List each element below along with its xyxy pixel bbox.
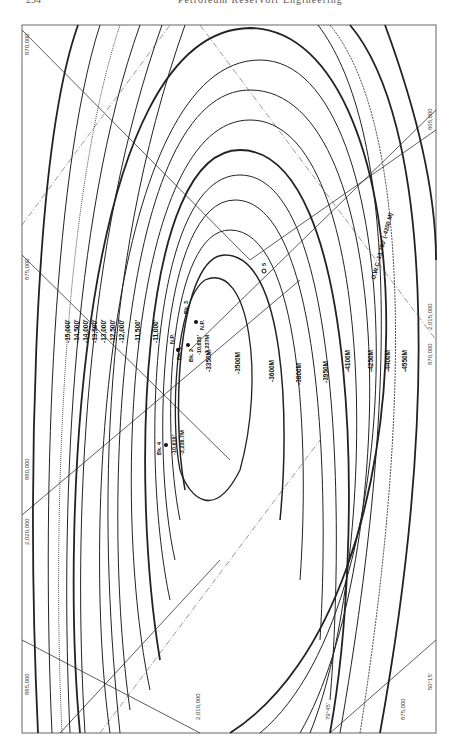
grid-coordinate-labels: 870,000 865,000 875,000 880,000 2,020,00… [24,33,433,720]
coord-label: 875,000 [400,698,406,720]
contour-label: -11,000' [152,319,160,343]
well-status: N.P. [169,334,175,344]
coord-label: 880,000 [24,458,30,480]
coord-label: 875,000 [24,258,30,280]
contour-label: -4100M [344,350,351,372]
contour-label: -4250M [367,350,374,372]
well-depth-m: -3,237M [204,334,210,355]
contour-label: -3800M [295,363,302,385]
contour-label: -11,500' [134,319,142,343]
contour-label: -14,000' [82,319,90,343]
well-name: Bk. 4 [156,441,162,455]
well-name: Bk. 2 [188,349,194,362]
owc-label: O.W.C.-13,780' (-4200 M) [370,212,394,280]
well-depth-ft: -10,620' [196,334,202,355]
well-name: Bk. 3 [183,301,189,314]
contour-label: -3950M [322,361,329,383]
well-depth-ft: -10,619' [171,434,177,455]
coord-label: 2,010,000 [195,693,201,720]
well-symbol-icon [164,443,168,447]
coord-label: 2,015,000 [427,303,433,330]
contour-label: -12,500' [109,319,117,343]
contour-label: -3500M [234,352,241,374]
coord-label: 2,020,000 [24,518,30,545]
well-name: 5 [261,263,267,266]
contour-label: -15,000' [64,319,72,343]
contour-label: -3600M [268,360,275,382]
contour-label: -4550M [401,350,408,372]
well-name: Bk. 1 [176,347,182,360]
coord-label: 870,000 [24,33,30,55]
well-status: N.P. [199,320,205,330]
contour-label: -12,000' [118,319,126,343]
coord-label: 50°15' [427,673,433,690]
coord-label: 865,000 [427,108,433,130]
well-symbol-icon [194,320,198,324]
contour-lines [33,25,436,733]
structure-contour-map: -15,000' -14,500' -14,000' -13,500' -13,… [0,0,457,747]
well-5: 5 [261,263,267,273]
contour-label: -14,500' [73,319,81,343]
well-symbol-icon [262,269,266,273]
well-symbol-icon [186,343,190,347]
contour-label: -13,000' [100,319,108,343]
subsea-contour-labels: -15,000' -14,500' -14,000' -13,500' -13,… [64,319,160,343]
metric-contour-labels: -3350M -3500M -3600M -3800M -3950M -4100… [205,350,408,385]
well-depth-m: -3,236.7M [179,430,185,455]
contour-label: -13,500' [91,319,99,343]
coord-label: 870,000 [427,343,433,365]
coord-label: 885,000 [24,673,30,695]
contour-label: -4400M [384,350,391,372]
coord-label: 79°45' [325,703,331,720]
